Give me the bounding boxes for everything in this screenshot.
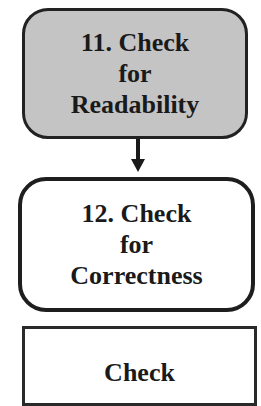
- step-11-check-readability: 11. Check for Readability: [22, 8, 248, 139]
- step-12-line-2: for: [120, 229, 153, 260]
- step-11-line-3: Readability: [71, 89, 200, 120]
- step-13-line-1: Check: [104, 357, 175, 388]
- step-12-check-correctness: 12. Check for Correctness: [18, 177, 255, 312]
- step-11-line-1: 11. Check: [81, 27, 189, 58]
- step-13-check-partial: Check: [22, 326, 257, 406]
- step-12-line-1: 12. Check: [82, 198, 192, 229]
- step-11-line-2: for: [118, 58, 151, 89]
- arrow-down-icon: [131, 159, 145, 172]
- step-12-line-3: Correctness: [70, 260, 202, 291]
- arrow-connector-shaft: [136, 139, 140, 161]
